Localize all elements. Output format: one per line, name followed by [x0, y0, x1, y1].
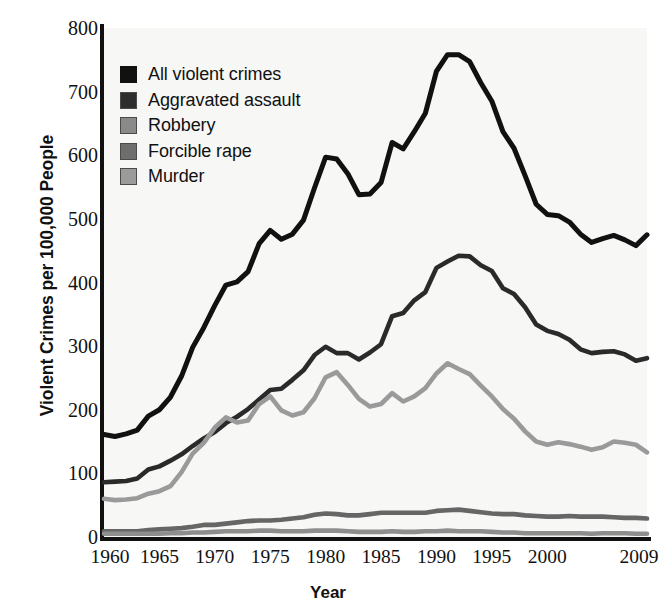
chart-legend: All violent crimesAggravated assaultRobb…	[120, 62, 350, 190]
x-tick-label: 2000	[528, 546, 567, 568]
legend-label: All violent crimes	[148, 64, 281, 85]
x-axis-title: Year	[0, 583, 656, 603]
legend-swatch-icon	[120, 143, 137, 160]
legend-swatch-icon	[120, 168, 137, 185]
legend-label: Murder	[148, 166, 204, 187]
x-axis-line	[100, 537, 651, 541]
legend-item: Aggravated assault	[120, 88, 350, 114]
x-tick-label: 1970	[195, 546, 234, 568]
legend-swatch-icon	[120, 117, 137, 134]
y-axis-line	[100, 24, 104, 541]
legend-swatch-icon	[120, 66, 137, 83]
y-axis-title: Violent Crimes per 100,000 People	[37, 41, 58, 511]
x-tick-label: 1995	[472, 546, 511, 568]
legend-label: Robbery	[148, 115, 215, 136]
x-tick-label: 1990	[417, 546, 456, 568]
legend-swatch-icon	[120, 92, 137, 109]
legend-label: Aggravated assault	[148, 90, 300, 111]
y-tick-label: 800	[40, 17, 98, 40]
legend-label: Forcible rape	[148, 141, 252, 162]
legend-item: All violent crimes	[120, 62, 350, 88]
legend-item: Murder	[120, 164, 350, 190]
x-tick-labels: 1960196519701975198019851990199520002009	[0, 546, 656, 576]
x-tick-label: 1980	[306, 546, 345, 568]
x-tick-label: 1975	[251, 546, 290, 568]
x-tick-label: 2009	[620, 546, 659, 568]
x-tick-label: 1965	[140, 546, 179, 568]
x-tick-label: 1985	[362, 546, 401, 568]
x-tick-label: 1960	[91, 546, 130, 568]
legend-item: Forcible rape	[120, 139, 350, 165]
legend-item: Robbery	[120, 113, 350, 139]
